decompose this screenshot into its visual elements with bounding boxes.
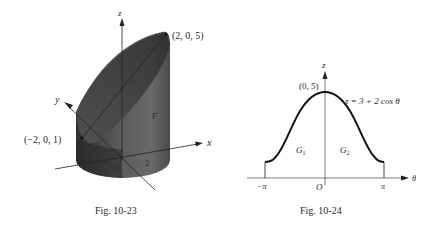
y-axis-label: y	[54, 94, 60, 105]
curve-equation-label: z = 3 + 2 cos θ	[344, 96, 400, 106]
caption-fig-10-24: Fig. 10-24	[300, 205, 342, 216]
fig-10-23-diagram: z x y (2, 0, 5) (−2, 0, 1) O 2 F Fig. 10…	[24, 8, 212, 216]
x-axis-label: x	[206, 137, 212, 148]
origin-label: O	[113, 163, 120, 173]
figure-canvas: z x y (2, 0, 5) (−2, 0, 1) O 2 F Fig. 10…	[0, 0, 434, 225]
surface-label: F	[151, 112, 157, 121]
region-g1-label: G1	[296, 145, 306, 156]
point-label-neg2-0-1: (−2, 0, 1)	[24, 134, 61, 146]
tick-label-origin: O	[316, 182, 323, 192]
theta-axis-label: θ	[412, 174, 416, 183]
peak-label: (0, 5)	[299, 81, 319, 91]
z-axis-2d-arrow-icon	[323, 71, 328, 79]
fig-10-24-chart: z (0, 5) z = 3 + 2 cos θ G1 G2 −π O π θ …	[247, 60, 416, 216]
point-label-2-0-5: (2, 0, 5)	[172, 30, 204, 42]
z-axis-arrow-icon	[120, 18, 125, 26]
caption-fig-10-23: Fig. 10-23	[95, 205, 137, 216]
theta-axis-arrow-icon	[401, 176, 409, 181]
tick-label-neg-pi: −π	[257, 182, 267, 191]
radius-label: 2	[145, 159, 149, 168]
tick-label-pi: π	[381, 182, 386, 191]
region-g2-label: G2	[340, 145, 350, 156]
point-2-0-5	[164, 32, 167, 35]
point-neg2-0-1	[80, 136, 83, 139]
x-axis-arrow-icon	[195, 142, 203, 147]
z-axis-2d-label: z	[321, 60, 326, 70]
y-axis-arrow-icon	[64, 102, 73, 109]
z-axis-label: z	[117, 8, 122, 18]
